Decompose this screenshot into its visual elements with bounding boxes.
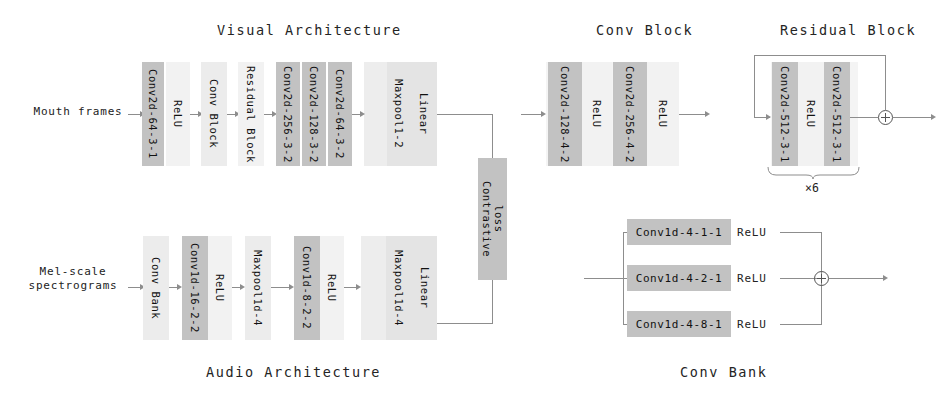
block-label: Maxpool1-2 [393,79,405,148]
mel-spectrogram-input-label: Mel-scale spectrograms [18,265,128,293]
audio-arrow-4 [356,284,361,290]
residual-output-arrow [931,114,936,120]
conv-bank-block-conv1d-4-2-1: Conv1d-4-2-1 [627,265,731,291]
contrastive-loss-block: Contrastive loss [478,158,507,280]
block-label: Conv1d-4-8-1 [636,318,723,331]
conv-bank-output-arrow [883,275,888,281]
block-label: Conv2d-256-3-2 [282,66,294,163]
conv-block-input-line [521,114,543,115]
visual-architecture-title: Visual Architecture [217,22,402,38]
visual-block-conv2d-64-3-2: Conv2d-64-3-2 [328,62,352,166]
visual-block-maxpool1-2: Maxpool1-2 [387,62,411,166]
audio-block-conv1d-16-2-2: Conv1d-16-2-2 [182,236,208,340]
conv-bank-relu-1: ReLU [737,226,777,240]
visual-block-conv2d-64-3-1: Conv2d-64-3-1 [142,62,164,166]
visual-output-drop [492,114,493,158]
block-label: Conv1d-4-1-1 [636,226,723,239]
visual-block-conv2d-256-3-2: Conv2d-256-3-2 [276,62,300,166]
conv-block-conv2d-256-4-2: Conv2d-256-4-2 [613,62,647,166]
conv-bank-block-conv1d-4-8-1: Conv1d-4-8-1 [627,311,731,337]
residual-skip-left [754,55,755,117]
audio-block-relu-1: ReLU [208,236,232,340]
conv-block-relu-1: ReLU [582,62,612,166]
visual-block-linear: Linear [411,62,437,166]
block-label: ReLU [214,274,226,302]
residual-repeat-count: ×6 [805,181,819,195]
visual-arrow-4 [360,111,365,117]
block-label: ReLU [657,100,669,128]
architecture-diagram: Visual Architecture Audio Architecture C… [0,0,944,402]
block-label: Linear [419,267,431,309]
audio-output-rise [492,280,493,324]
conv-bank-input-line [584,278,624,279]
block-label: ReLU [805,100,817,128]
audio-block-conv-bank: Conv Bank [143,236,169,340]
block-label: Conv1d-16-2-2 [189,243,201,333]
residual-block-relu: ReLU [798,62,824,166]
residual-sum-node [878,110,893,125]
audio-connector-3 [271,287,291,288]
block-label: Conv1d-4-2-1 [636,272,723,285]
audio-block-linear: Linear [412,236,437,340]
conv-block-input-arrow [541,111,546,117]
block-label: Conv2d-64-3-2 [334,69,346,159]
conv-bank-sum-node [814,271,829,286]
residual-skip-right [885,55,886,110]
mel-input-line1: Mel-scale [18,265,128,279]
visual-block-conv-block: Conv Block [201,62,227,166]
mel-input-line2: spectrograms [18,279,128,293]
conv-block-relu-2: ReLU [647,62,679,166]
conv-bank-relu-3: ReLU [737,318,777,332]
conv-block-title: Conv Block [596,22,693,38]
block-label: Maxpool1d-4 [252,250,264,326]
conv-block-conv2d-128-4-2: Conv2d-128-4-2 [548,62,582,166]
contrastive-loss-line2: loss [493,205,505,233]
audio-output-line [437,323,493,324]
visual-output-line [437,114,493,115]
conv-bank-branch1-out [780,232,822,233]
block-label: ReLU [172,100,184,128]
audio-block-maxpool1d-4-a: Maxpool1d-4 [245,236,271,340]
block-label: Conv2d-256-4-2 [624,66,636,163]
audio-architecture-title: Audio Architecture [206,364,381,380]
residual-block-conv2d-512-3-1-b: Conv2d-512-3-1 [824,62,850,166]
visual-block-residual-block: Residual Block [238,62,264,166]
audio-block-maxpool1d-4-b: Maxpool1d-4 [386,236,412,340]
residual-input-arrow [766,114,771,120]
conv-bank-branch2-out [780,278,817,279]
mouth-frames-input-label: Mouth frames [28,105,128,119]
block-label: Conv Block [208,79,220,148]
conv-bank-output-line [829,278,885,279]
block-label: Residual Block [245,66,257,163]
block-label: Linear [418,93,430,135]
conv-block-output-arrow [705,111,710,117]
block-label: Conv2d-128-4-2 [559,66,571,163]
conv-bank-title: Conv Bank [680,364,768,380]
block-label: Conv2d-512-3-1 [831,66,843,163]
block-label: Conv2d-512-3-1 [779,66,791,163]
residual-to-sum-line [850,117,878,118]
block-label: Conv1d-8-2-2 [301,246,313,329]
residual-block-title: Residual Block [780,22,916,38]
contrastive-loss-line1: Contrastive [481,181,493,257]
residual-block-conv2d-512-3-1-a: Conv2d-512-3-1 [772,62,798,166]
residual-repeat-brace [766,166,862,180]
block-label: Conv Bank [150,257,162,319]
block-label: Maxpool1d-4 [393,250,405,326]
visual-block-relu-1: ReLU [166,62,190,166]
audio-block-conv1d-8-2-2: Conv1d-8-2-2 [294,236,320,340]
block-label: ReLU [591,100,603,128]
conv-bank-block-conv1d-4-1-1: Conv1d-4-1-1 [627,219,731,245]
visual-block-conv2d-128-3-2: Conv2d-128-3-2 [302,62,326,166]
conv-block-output-line [679,114,707,115]
residual-output-line [893,117,933,118]
block-label: Conv2d-64-3-1 [147,69,159,159]
conv-bank-branch3-out [780,324,822,325]
residual-skip-top [754,55,886,56]
block-label: ReLU [326,274,338,302]
conv-bank-relu-2: ReLU [737,272,777,286]
block-label: Conv2d-128-3-2 [308,66,320,163]
audio-block-relu-2: ReLU [320,236,344,340]
